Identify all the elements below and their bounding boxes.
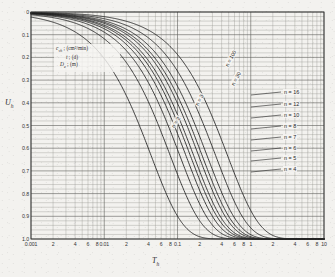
- x-tick-label: 8: [242, 241, 245, 247]
- y-tick-label: 0.7: [14, 168, 29, 174]
- x-tick-label: 6: [87, 241, 90, 247]
- curve-label-n5: n = 5: [283, 155, 297, 161]
- x-tick-label: 2: [198, 241, 201, 247]
- x-tick-label: 8: [315, 241, 318, 247]
- curve-label-n10: n = 10: [283, 112, 300, 118]
- y-tick-label: 0.6: [14, 145, 29, 151]
- callout-leader-line: [251, 126, 281, 129]
- curve-label-n4: n = 4: [283, 166, 297, 172]
- curve-label-n12: n = 12: [283, 101, 300, 107]
- legend-line-t: t ; (d): [56, 54, 118, 61]
- y-tick-label: 0.5: [14, 123, 29, 129]
- x-tick-label: 1: [249, 241, 252, 247]
- x-tick-label: 6: [306, 241, 309, 247]
- y-tick-label: 0.1: [14, 32, 29, 38]
- y-tick-label: 0.8: [14, 191, 29, 197]
- x-tick-label: 8: [96, 241, 99, 247]
- legend-line-de: De ; (m): [56, 61, 118, 70]
- callout-leader-line: [251, 158, 281, 161]
- x-tick-label: 6: [233, 241, 236, 247]
- y-tick-label: 0.4: [14, 100, 29, 106]
- x-tick-label: 4: [147, 241, 150, 247]
- curve-label-n7: n = 7: [283, 134, 297, 140]
- y-tick-label: 0.9: [14, 213, 29, 219]
- x-tick-label: 4: [74, 241, 77, 247]
- x-tick-label: 4: [293, 241, 296, 247]
- x-tick-label: 2: [125, 241, 128, 247]
- x-tick-label: 0.1: [174, 241, 181, 247]
- y-axis-label: Uh: [5, 98, 14, 109]
- x-tick-label: 8: [169, 241, 172, 247]
- curve-label-n6: n = 6: [283, 145, 297, 151]
- curve-n-2: [31, 0, 234, 277]
- y-tick-label: 0.2: [14, 54, 29, 60]
- callout-leader-line: [251, 169, 281, 172]
- y-tick-label: 0.3: [14, 77, 29, 83]
- x-tick-label: 4: [220, 241, 223, 247]
- x-tick-label: 0.01: [99, 241, 109, 247]
- x-tick-label: 10: [321, 241, 327, 247]
- curve-label-n8: n = 8: [283, 123, 297, 129]
- y-tick-label: 1.0: [14, 236, 29, 242]
- chart-figure: Th Uh 0.00124680.0124680.124681246810 00…: [0, 0, 335, 277]
- x-axis-label: Th: [152, 256, 159, 267]
- callout-leader-line: [251, 104, 281, 107]
- x-tick-label: 2: [52, 241, 55, 247]
- units-legend: cvh ; (cm²/min) t ; (d) De ; (m): [54, 44, 120, 72]
- x-tick-label: 6: [160, 241, 163, 247]
- callout-leader-line: [251, 92, 281, 95]
- curve-label-n16: n = 16: [283, 89, 300, 95]
- callout-leader-line: [251, 137, 281, 140]
- y-tick-label: 0: [14, 9, 29, 15]
- x-tick-label: 2: [271, 241, 274, 247]
- legend-line-cvh: cvh ; (cm²/min): [56, 45, 118, 54]
